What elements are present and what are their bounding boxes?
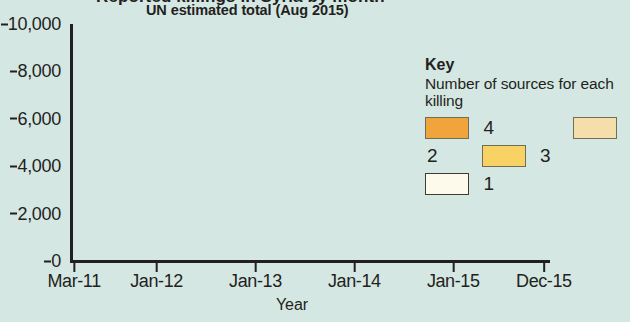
y-tick-mark (10, 213, 17, 215)
x-tick-label: Jan-15 (427, 271, 480, 292)
y-tick-mark (10, 118, 17, 120)
legend-label-sources-1: 1 (482, 174, 533, 193)
legend-subtitle: Number of sources for each killing (425, 75, 623, 110)
x-tick: Jan-13 (229, 263, 282, 292)
x-tick-label: Jan-12 (130, 271, 183, 292)
x-tick-label: Mar-11 (47, 271, 100, 292)
y-tick-label: 10,000 (8, 14, 70, 35)
legend-swatch-sources-3 (482, 145, 526, 167)
x-tick-label: Dec-15 (516, 271, 572, 292)
chart-title: UN estimated total (Aug 2015) (146, 2, 349, 18)
legend-label-sources-2: 2 (425, 146, 476, 165)
y-tick-mark (10, 70, 17, 72)
legend-entries: 4231 (425, 117, 623, 195)
x-tick: Jan-12 (130, 263, 183, 292)
y-tick-label: 4,000 (17, 156, 70, 177)
legend-swatch-sources-2 (573, 117, 617, 139)
y-tick-label: 8,000 (17, 61, 70, 82)
legend-swatch-sources-4 (425, 117, 469, 139)
legend-title: Key (425, 56, 623, 74)
chart-container: Reported killings in Syria by month UN e… (0, 0, 630, 322)
y-tick-label: 2,000 (17, 203, 70, 224)
legend-label-sources-4: 4 (482, 118, 533, 137)
x-tick: Mar-11 (47, 263, 100, 292)
x-tick-label: Jan-14 (328, 271, 381, 292)
legend: Key Number of sources for each killing 4… (425, 56, 623, 195)
x-tick-label: Jan-13 (229, 271, 282, 292)
y-tick-mark (1, 23, 8, 25)
x-tick: Jan-14 (328, 263, 381, 292)
x-tick: Dec-15 (516, 263, 572, 292)
y-tick-mark (10, 165, 17, 167)
y-tick-mark (44, 260, 51, 262)
x-axis-title: Year (276, 296, 308, 314)
legend-label-sources-3: 3 (538, 146, 567, 165)
x-tick: Jan-15 (427, 263, 480, 292)
legend-swatch-sources-1 (425, 173, 469, 195)
y-tick-label: 6,000 (17, 108, 70, 129)
